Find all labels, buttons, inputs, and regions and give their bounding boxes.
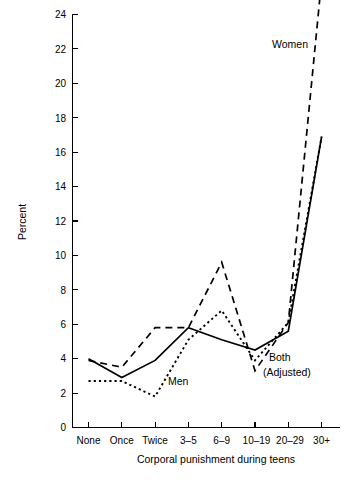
series-annotation-both-line1: Both: [269, 351, 291, 363]
series-annotation-men: Men: [168, 375, 189, 387]
series-annotation-both-line2: (Adjusted): [263, 366, 311, 378]
x-tick-label: 30+: [313, 435, 330, 446]
x-tick-label: 6–9: [213, 435, 230, 446]
x-tick-label: Once: [110, 435, 134, 446]
y-axis-title: Percent: [16, 204, 28, 240]
y-tick-label: 14: [55, 181, 67, 192]
x-axis-title: Corporal punishment during teens: [137, 453, 295, 465]
y-axis-tick-labels: 0 2 4 6 8 10 12 14 16 18 20 22 24: [55, 9, 67, 433]
series-line-women: [89, 0, 322, 371]
series-line-both-adjusted: [89, 137, 322, 378]
x-axis-tick-labels: None Once Twice 3–5 6–9 10–19 20–29 30+: [77, 435, 331, 446]
x-tick-label: Twice: [142, 435, 168, 446]
y-tick-label: 6: [60, 319, 66, 330]
y-tick-label: 12: [55, 216, 67, 227]
y-tick-label: 2: [60, 388, 66, 399]
y-tick-label: 8: [60, 285, 66, 296]
y-tick-label: 18: [55, 113, 67, 124]
y-tick-label: 0: [60, 422, 66, 433]
x-axis-ticks: [89, 422, 322, 428]
y-tick-label: 16: [55, 147, 67, 158]
y-tick-label: 22: [55, 44, 67, 55]
x-tick-label: 20–29: [276, 435, 304, 446]
x-tick-label: 3–5: [180, 435, 197, 446]
chart-figure: 0 2 4 6 8 10 12 14 16 18 20 22 24: [0, 0, 350, 482]
y-tick-label: 10: [55, 250, 67, 261]
y-axis-ticks: [73, 15, 79, 428]
x-tick-label: 10–19: [243, 435, 271, 446]
line-chart-plot: 0 2 4 6 8 10 12 14 16 18 20 22 24: [0, 0, 350, 482]
y-tick-label: 20: [55, 78, 67, 89]
x-tick-label: None: [77, 435, 101, 446]
series-annotation-women: Women: [272, 38, 308, 50]
y-tick-label: 4: [60, 353, 66, 364]
y-tick-label: 24: [55, 9, 67, 20]
series-group: [89, 0, 322, 397]
